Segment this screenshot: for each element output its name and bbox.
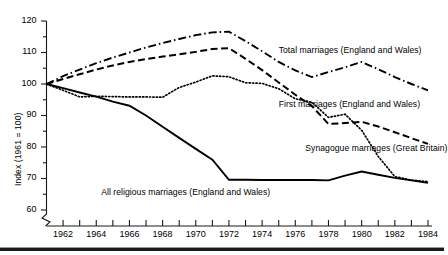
series-annotation: Total marriages (England and Wales) — [279, 45, 422, 55]
y-tick-label: 120 — [13, 15, 37, 25]
y-tick-label: 90 — [13, 109, 37, 119]
y-tick-label: 110 — [13, 46, 37, 56]
series-line-2 — [47, 76, 429, 182]
x-tick-label: 1984 — [408, 229, 448, 239]
y-tick-label: 80 — [13, 141, 37, 151]
series-annotation: Synagogue marriages (Great Britain) — [305, 143, 447, 153]
series-annotation: All religious marriages (England and Wal… — [101, 187, 270, 197]
series-annotation: First marriages (England and Wales) — [279, 99, 420, 109]
series-line-0 — [47, 32, 429, 91]
bottom-divider-rule — [0, 247, 444, 251]
y-tick-label: 100 — [13, 78, 37, 88]
y-axis-break-symbol — [42, 210, 50, 226]
y-tick-label: 70 — [13, 172, 37, 182]
y-tick-label: 60 — [13, 204, 37, 214]
